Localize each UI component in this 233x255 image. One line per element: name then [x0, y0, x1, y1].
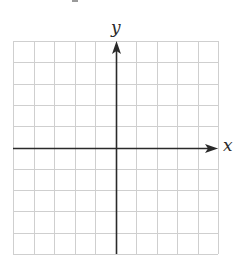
axes	[13, 41, 218, 254]
coordinate-plane	[0, 0, 233, 255]
x-axis-label: x	[223, 137, 233, 154]
y-axis-label: y	[111, 19, 121, 36]
